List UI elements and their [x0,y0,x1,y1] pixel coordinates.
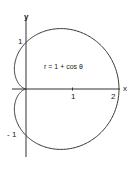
cardioid-plot [0,0,134,169]
y-tick-label-1: 1 [18,38,22,46]
x-tick-label-1: 1 [71,93,75,101]
y-axis-label: y [24,13,28,21]
y-tick-label-neg1: - 1 [7,131,16,139]
x-axis-label: x [123,85,127,93]
x-tick-label-2: 2 [111,93,115,101]
equation-label: r = 1 + cos θ [44,63,83,70]
